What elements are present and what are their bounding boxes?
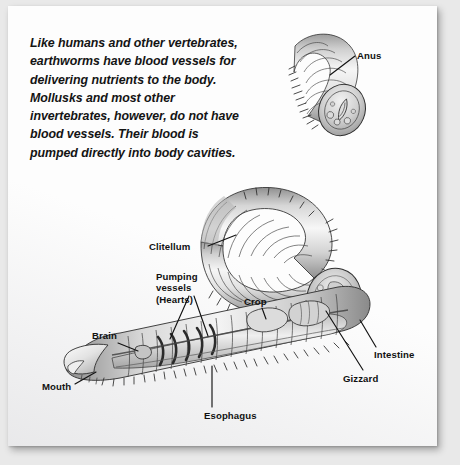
- label-brain: Brain: [92, 330, 117, 341]
- page-card: Like humans and other vertebrates, earth…: [8, 6, 437, 446]
- label-intestine: Intestine: [374, 349, 414, 360]
- label-clitellum: Clitellum: [149, 241, 190, 252]
- label-anus: Anus: [357, 50, 381, 61]
- label-crop: Crop: [244, 296, 267, 307]
- label-gizzard: Gizzard: [343, 373, 378, 384]
- label-mouth: Mouth: [42, 381, 71, 392]
- label-pumping-vessels: Pumping vessels (Hearts): [156, 271, 230, 305]
- label-esophagus: Esophagus: [204, 410, 257, 421]
- leader-intestine: [360, 320, 376, 347]
- tail-cross-section: [311, 77, 373, 142]
- caption-text: Like humans and other vertebrates, earth…: [30, 34, 242, 162]
